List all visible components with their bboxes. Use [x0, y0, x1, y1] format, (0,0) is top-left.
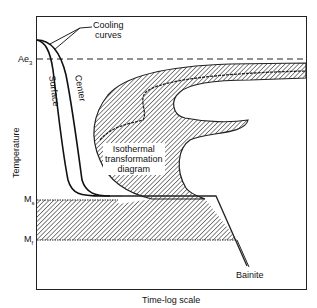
mf-label: Mf — [24, 234, 33, 248]
x-axis-label: Time-log scale — [142, 295, 200, 305]
ae3-label: Ae3 — [18, 54, 32, 68]
ms-label: Ms — [24, 194, 35, 208]
isothermal-region — [94, 63, 306, 199]
cooling-curves-label: Cooling curves — [93, 20, 124, 40]
cooling-leader — [50, 27, 92, 50]
isothermal-label: Isothermal transformation diagram — [103, 143, 165, 175]
martensite-region — [37, 199, 237, 240]
bainite-leader — [237, 240, 249, 267]
y-axis-label: Temperature — [11, 127, 21, 178]
bainite-label: Bainite — [236, 270, 264, 280]
